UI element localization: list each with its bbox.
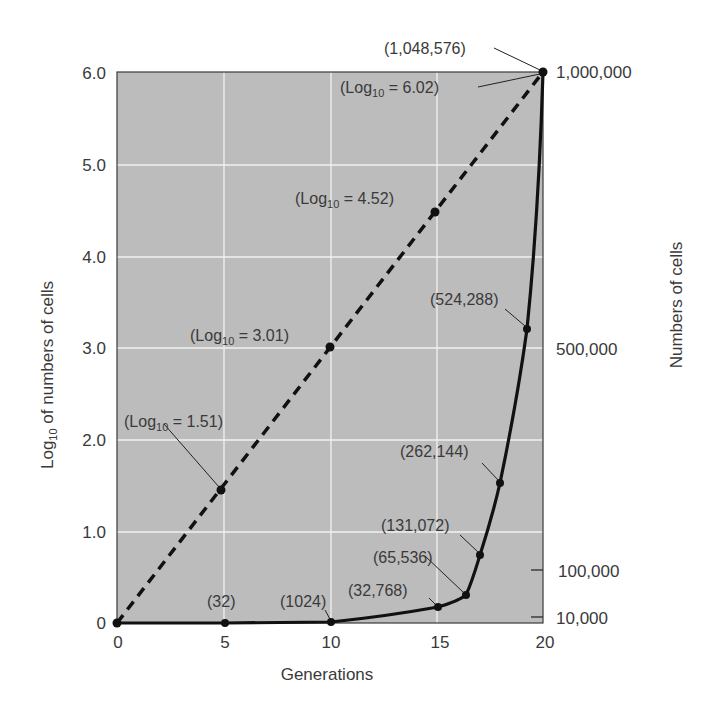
chart: 0 1.0 2.0 3.0 4.0 5.0 6.0 0 5 10 15 20 1… bbox=[0, 0, 713, 713]
annotation-32: (32) bbox=[207, 593, 235, 610]
x-tick-labels: 0 5 10 15 20 bbox=[113, 633, 554, 652]
x-tick: 0 bbox=[113, 633, 122, 652]
annotation-524288: (524,288) bbox=[430, 291, 499, 308]
x-tick: 5 bbox=[220, 633, 229, 652]
y-tick: 4.0 bbox=[82, 248, 106, 267]
annotation-1024: (1024) bbox=[280, 593, 326, 610]
x-axis-label: Generations bbox=[281, 665, 374, 684]
right-tick: 500,000 bbox=[556, 340, 617, 359]
right-axis-label: Numbers of cells bbox=[667, 242, 686, 369]
y-tick: 6.0 bbox=[82, 64, 106, 83]
annotation-262144: (262,144) bbox=[400, 443, 469, 460]
annotation-1048576: (1,048,576) bbox=[384, 40, 466, 57]
y-tick: 0 bbox=[97, 614, 106, 633]
annotation-131072: (131,072) bbox=[381, 517, 450, 534]
x-tick: 10 bbox=[322, 633, 341, 652]
right-tick: 100,000 bbox=[558, 562, 619, 581]
x-tick: 15 bbox=[431, 633, 450, 652]
right-tick-labels: 10,000 100,000 500,000 1,000,000 bbox=[556, 63, 632, 628]
left-axis-label: Log10 of numbers of cells bbox=[38, 281, 59, 469]
x-tick: 20 bbox=[536, 633, 555, 652]
y-tick: 5.0 bbox=[82, 156, 106, 175]
y-tick: 1.0 bbox=[82, 523, 106, 542]
y-tick-labels: 0 1.0 2.0 3.0 4.0 5.0 6.0 bbox=[82, 64, 106, 633]
y-tick: 3.0 bbox=[82, 339, 106, 358]
annotation-32768: (32,768) bbox=[348, 582, 408, 599]
annotation-65536: (65,536) bbox=[373, 549, 433, 566]
right-tick: 10,000 bbox=[556, 609, 608, 628]
y-tick: 2.0 bbox=[82, 431, 106, 450]
right-tick: 1,000,000 bbox=[556, 63, 632, 82]
